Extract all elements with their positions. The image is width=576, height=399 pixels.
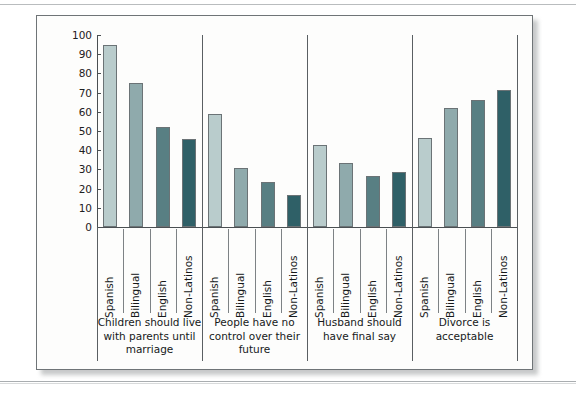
- category-label-non-latinos: Non-Latinos: [183, 255, 194, 318]
- bar: [366, 176, 380, 227]
- y-tick-label-60: 60: [55, 107, 92, 117]
- y-tick-label-80: 80: [55, 68, 92, 78]
- page-rule-top: [0, 4, 576, 5]
- category-label-english: English: [157, 280, 168, 318]
- bar: [471, 100, 485, 227]
- group-caption: Divorce is acceptable: [412, 316, 517, 343]
- bar: [339, 163, 353, 227]
- page-rule-bottom-secondary: [0, 383, 576, 384]
- category-label-spanish: Spanish: [314, 277, 325, 318]
- category-label-bilingual: Bilingual: [235, 273, 246, 318]
- bar-chart: 0102030405060708090100 SpanishBilingualE…: [37, 16, 532, 369]
- bar: [182, 139, 196, 227]
- y-tick-label-70: 70: [55, 88, 92, 98]
- y-tick-label-50: 50: [55, 126, 92, 136]
- y-tick-label-20: 20: [55, 184, 92, 194]
- group-caption: People have no control over their future: [202, 316, 307, 357]
- bar: [497, 90, 511, 227]
- category-divider: [176, 229, 177, 313]
- category-divider: [150, 229, 151, 313]
- bar: [287, 195, 301, 227]
- category-label-spanish: Spanish: [419, 277, 430, 318]
- bar: [261, 182, 275, 227]
- bar: [418, 138, 432, 227]
- figure-box: 0102030405060708090100 SpanishBilingualE…: [36, 15, 533, 370]
- y-tick-label-100: 100: [55, 30, 92, 40]
- category-divider: [123, 229, 124, 313]
- category-divider: [281, 229, 282, 313]
- group-caption: Husband should have final say: [307, 316, 412, 343]
- y-tick-label-10: 10: [55, 203, 92, 213]
- category-divider: [333, 229, 334, 313]
- bar: [444, 108, 458, 227]
- y-tick-label-0: 0: [55, 222, 92, 232]
- bar: [392, 172, 406, 227]
- category-label-bilingual: Bilingual: [340, 273, 351, 318]
- bar: [208, 114, 222, 227]
- category-label-english: English: [262, 280, 273, 318]
- bar: [129, 83, 143, 227]
- bars-layer: [97, 35, 517, 227]
- group-separator: [517, 35, 518, 361]
- category-label-english: English: [472, 280, 483, 318]
- y-tick-label-40: 40: [55, 145, 92, 155]
- y-tick-label-90: 90: [55, 49, 92, 59]
- category-divider: [491, 229, 492, 313]
- category-divider: [465, 229, 466, 313]
- page-rule-bottom: [0, 381, 576, 382]
- category-label-spanish: Spanish: [209, 277, 220, 318]
- category-label-bilingual: Bilingual: [445, 273, 456, 318]
- category-divider: [255, 229, 256, 313]
- bar: [234, 168, 248, 227]
- category-divider: [438, 229, 439, 313]
- category-divider: [228, 229, 229, 313]
- bar: [103, 45, 117, 227]
- group-caption: Children should live with parents until …: [97, 316, 202, 357]
- bar: [313, 145, 327, 227]
- category-label-non-latinos: Non-Latinos: [288, 255, 299, 318]
- bar: [156, 127, 170, 227]
- category-label-spanish: Spanish: [104, 277, 115, 318]
- category-label-non-latinos: Non-Latinos: [393, 255, 404, 318]
- category-label-bilingual: Bilingual: [130, 273, 141, 318]
- category-divider: [386, 229, 387, 313]
- y-tick-label-30: 30: [55, 164, 92, 174]
- category-divider: [360, 229, 361, 313]
- category-label-english: English: [367, 280, 378, 318]
- category-label-non-latinos: Non-Latinos: [498, 255, 509, 318]
